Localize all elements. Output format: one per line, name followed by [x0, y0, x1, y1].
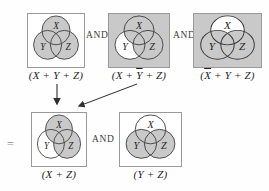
svg-text:Y: Y — [44, 140, 50, 150]
venn-box: XYZ — [31, 112, 87, 167]
svg-text:Z: Z — [161, 140, 167, 151]
svg-text:Z: Z — [68, 140, 74, 150]
venn-expression-label: (X + Y + Z) — [108, 69, 170, 81]
svg-text:X: X — [223, 21, 232, 31]
venn-reduction-figure: XYZ (X + Y + Z) AND XYZ (X + Y + Z) AND … — [0, 0, 269, 191]
venn-expression-label: (X + Y + Z) — [193, 69, 262, 81]
venn-box: XYZ — [108, 13, 170, 68]
venn-expression-label: (X + Z) — [31, 168, 87, 180]
venn-box: XYZ — [27, 13, 85, 68]
venn-diagram-y-plus-z: XYZ (Y + Z) — [119, 112, 182, 180]
venn-expression-label: (Y + Z) — [119, 168, 182, 180]
arrows-layer — [40, 83, 150, 111]
svg-text:X: X — [52, 21, 60, 31]
diagonal-arrow — [79, 84, 137, 106]
venn-expression-label: (X + Y + Z) — [27, 69, 85, 81]
and-operator-top-1: AND — [86, 30, 108, 40]
venn-box: XYZ — [193, 13, 262, 68]
svg-text:Z: Z — [66, 42, 72, 52]
and-operator-bottom: AND — [92, 134, 114, 144]
svg-text:X: X — [146, 120, 154, 131]
equals-sign: = — [7, 137, 14, 152]
svg-text:X: X — [55, 120, 62, 130]
venn-diagram-x-plus-y-plus-z: XYZ (X + Y + Z) — [27, 13, 85, 81]
venn-diagram-not-x-plus-y-plus-z: XYZ (X + Y + Z) — [193, 13, 262, 81]
svg-text:X: X — [135, 21, 143, 32]
venn-diagram-x-plus-z: XYZ (X + Z) — [31, 112, 87, 180]
venn-box: XYZ — [119, 112, 182, 167]
venn-diagram-x-plus-not-y-plus-z: XYZ (X + Y + Z) — [108, 13, 170, 81]
svg-text:Z: Z — [239, 41, 245, 51]
svg-text:Z: Z — [149, 41, 155, 52]
